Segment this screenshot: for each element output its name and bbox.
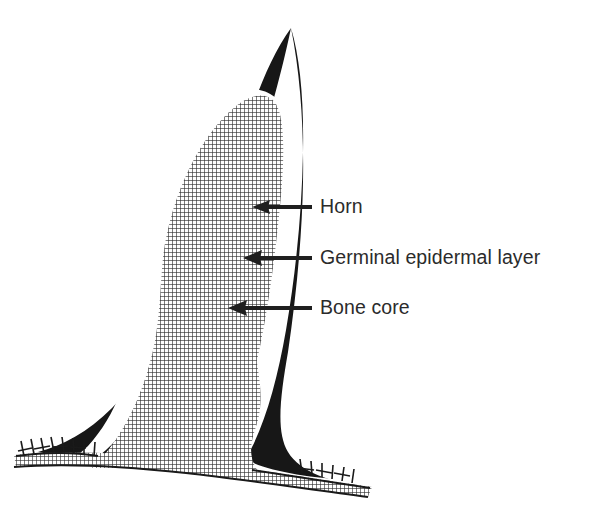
callout-label-horn: Horn bbox=[320, 197, 363, 217]
callout-label-bone-core: Bone core bbox=[320, 298, 410, 318]
horn-cross-section-figure: Horn Germinal epidermal layer Bone core bbox=[0, 0, 590, 520]
callout-label-germinal-epidermal-layer: Germinal epidermal layer bbox=[320, 248, 540, 268]
